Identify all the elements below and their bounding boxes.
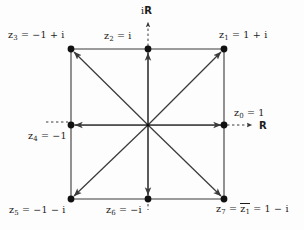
label-z3-expression: = −1 + i (18, 29, 65, 40)
label-z6: z6 = −i (106, 205, 142, 217)
dot-z5 (68, 196, 75, 203)
real-axis-label: R (259, 121, 267, 132)
label-z5-expression: = −1 − i (19, 204, 66, 215)
figure-container: iR z3 = −1 + i z2 = i z1 = 1 + i z0 = 1 … (0, 0, 304, 230)
label-z7-expression: = 1 − i (250, 203, 289, 214)
label-z7-equals: = (226, 203, 241, 214)
imaginary-axis-label: iR (141, 6, 152, 17)
label-z6-expression: = −i (116, 204, 142, 215)
label-z4: z4 = −1 (28, 131, 67, 143)
real-axis-blackboard-r: R (259, 120, 267, 131)
label-z7-conjugate: z1 (240, 203, 250, 216)
label-z5: z5 = −1 − i (9, 205, 66, 217)
vector-z1 (148, 52, 221, 125)
label-z1-expression: = 1 + i (229, 29, 268, 40)
label-z4-expression: = −1 (38, 130, 67, 141)
vector-z3 (74, 52, 148, 125)
dot-z7 (221, 196, 228, 203)
vector-z7 (148, 125, 221, 196)
label-z0: z0 = 1 (234, 108, 265, 120)
vector-z5 (74, 125, 148, 196)
dot-z6 (145, 196, 152, 203)
label-z2-expression: = i (114, 30, 132, 41)
label-z7: z7 = z1 = 1 − i (216, 203, 289, 216)
label-z1: z1 = 1 + i (219, 30, 267, 42)
dot-z4 (68, 122, 75, 129)
dot-center (146, 123, 149, 126)
label-z2: z2 = i (104, 31, 132, 43)
label-z3: z3 = −1 + i (8, 30, 65, 42)
dot-z1 (221, 46, 228, 53)
label-z0-expression: = 1 (244, 107, 265, 118)
dot-z2 (145, 46, 152, 53)
imaginary-axis-blackboard-r: R (144, 5, 152, 16)
dot-z0 (221, 122, 228, 129)
dot-z3 (68, 46, 75, 53)
